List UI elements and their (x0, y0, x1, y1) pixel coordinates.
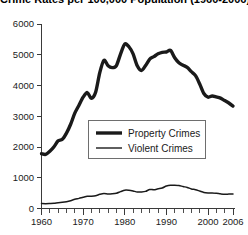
legend-label-violent-crimes: Violent Crimes (128, 143, 193, 154)
x-axis-ticks (42, 209, 234, 215)
x-axis: 196019701980199020002006 (31, 209, 244, 228)
x-axis-tick-labels: 196019701980199020002006 (31, 216, 244, 227)
y-axis-tick-labels: 0100020003000400050006000 (13, 18, 34, 214)
y-tick-label: 3000 (13, 111, 34, 122)
x-tick-label: 1980 (114, 216, 135, 227)
y-tick-label: 5000 (13, 49, 34, 60)
x-tick-label: 1970 (73, 216, 94, 227)
legend: Property Crimes Violent Crimes (89, 121, 206, 159)
x-tick-label: 2000 (197, 216, 218, 227)
x-tick-label: 2006 (222, 216, 243, 227)
y-tick-label: 0 (29, 203, 34, 214)
legend-label-property-crimes: Property Crimes (128, 128, 200, 139)
chart-plot-area: 0100020003000400050006000 19601970198019… (0, 0, 248, 235)
y-tick-label: 2000 (13, 141, 34, 152)
crime-rates-chart: Crime Rates per 100,000 Population (1960… (0, 0, 248, 235)
x-axis-minor-ticks (42, 209, 234, 214)
y-tick-label: 4000 (13, 80, 34, 91)
x-tick-label: 1990 (156, 216, 177, 227)
series-line-violent-crimes (42, 185, 234, 204)
y-axis-ticks (37, 24, 42, 209)
x-tick-label: 1960 (31, 216, 52, 227)
y-tick-label: 6000 (13, 18, 34, 29)
y-tick-label: 1000 (13, 172, 34, 183)
y-axis: 0100020003000400050006000 (13, 18, 42, 214)
